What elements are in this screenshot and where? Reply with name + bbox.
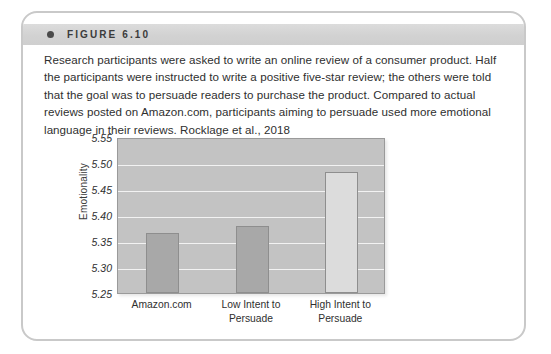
bars-layer [118,139,384,293]
bar-chart: Emotionality 5.255.305.355.405.455.505.5… [44,138,506,333]
caption-citation: Rocklage et al., 2018 [180,123,290,136]
x-axis-tick-label: High Intent to Persuade [296,298,385,325]
y-axis-tick-label: 5.55 [66,132,112,144]
x-axis-tick-labels: Amazon.comLow Intent to PersuadeHigh Int… [117,298,385,332]
figure-card: FIGURE 6.10 Research participants were a… [21,11,526,341]
y-axis-tick-label: 5.35 [66,236,112,248]
y-axis-tick-labels: 5.255.305.355.405.455.505.55 [66,138,112,294]
x-axis-tick-label: Amazon.com [117,298,206,312]
figure-header-band: FIGURE 6.10 [23,24,524,45]
figure-label: FIGURE 6.10 [67,29,150,40]
bar [236,226,269,293]
bar [146,233,179,293]
bar [325,172,358,293]
y-axis-tick-label: 5.30 [66,262,112,274]
figure-caption: Research participants were asked to writ… [44,51,508,138]
plot-area [117,138,385,294]
bullet-dot-icon [47,31,54,38]
y-axis-tick-label: 5.45 [66,184,112,196]
x-axis-tick-label: Low Intent to Persuade [206,298,295,325]
y-axis-tick-label: 5.25 [66,288,112,300]
y-axis-tick-label: 5.50 [66,158,112,170]
y-axis-tick-label: 5.40 [66,210,112,222]
